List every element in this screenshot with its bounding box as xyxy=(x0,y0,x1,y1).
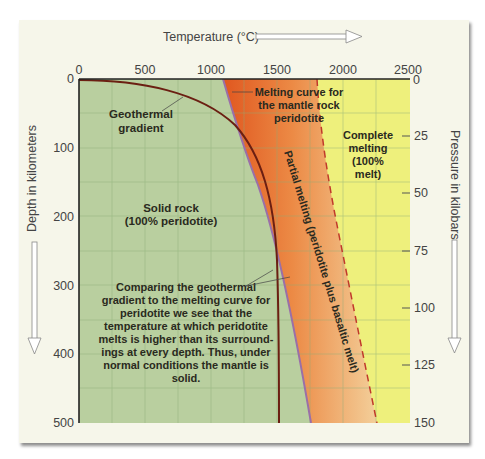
svg-text:150: 150 xyxy=(414,416,435,430)
svg-text:300: 300 xyxy=(53,279,74,293)
svg-text:Complete: Complete xyxy=(343,129,393,141)
svg-text:peridotite: peridotite xyxy=(274,112,324,124)
svg-text:500: 500 xyxy=(135,63,156,77)
svg-text:peridotite we see that the: peridotite we see that the xyxy=(120,307,252,319)
svg-text:the mantle rock: the mantle rock xyxy=(258,99,340,111)
svg-text:normal conditions the mantle i: normal conditions the mantle is xyxy=(103,359,269,371)
svg-text:75: 75 xyxy=(414,244,428,258)
svg-text:1000: 1000 xyxy=(197,63,225,77)
svg-text:1500: 1500 xyxy=(263,63,291,77)
svg-text:400: 400 xyxy=(53,347,74,361)
svg-text:(100% peridotite): (100% peridotite) xyxy=(125,215,218,227)
svg-text:2000: 2000 xyxy=(329,63,357,77)
right-arrow-icon xyxy=(256,30,362,43)
svg-text:Comparing the geothermal: Comparing the geothermal xyxy=(116,281,256,293)
svg-text:melt): melt) xyxy=(355,168,382,180)
svg-text:0: 0 xyxy=(67,72,74,86)
svg-text:ings at every depth. Thus, und: ings at every depth. Thus, under xyxy=(101,346,271,358)
phase-diagram: Temperature (°C) 0 500 1000 1500 2000 25… xyxy=(0,0,485,459)
svg-text:temperature at which peridotit: temperature at which peridotite xyxy=(104,320,268,332)
x-ticks: 0 500 1000 1500 2000 2500 xyxy=(76,63,422,77)
svg-text:gradient: gradient xyxy=(118,122,164,134)
svg-text:25: 25 xyxy=(414,129,428,143)
right-axis-title: Pressure in kilobars xyxy=(448,130,462,240)
svg-text:125: 125 xyxy=(414,358,435,372)
svg-text:0: 0 xyxy=(76,63,83,77)
svg-text:gradient to the melting curve: gradient to the melting curve for xyxy=(102,294,271,306)
depth-ticks: 0 100 200 300 400 500 xyxy=(53,72,74,430)
svg-text:(100%: (100% xyxy=(352,155,384,167)
svg-text:solid.: solid. xyxy=(172,372,201,384)
down-arrow-icon-right xyxy=(448,240,461,353)
svg-text:0: 0 xyxy=(413,73,420,87)
left-axis-title: Depth in kilometers xyxy=(25,125,39,232)
svg-text:melting: melting xyxy=(348,142,387,154)
svg-text:200: 200 xyxy=(53,210,74,224)
svg-text:500: 500 xyxy=(53,416,74,430)
svg-text:50: 50 xyxy=(414,186,428,200)
svg-text:melts is higher than its surro: melts is higher than its surround- xyxy=(99,333,274,345)
svg-text:100: 100 xyxy=(414,301,435,315)
down-arrow-icon-left xyxy=(28,242,41,354)
x-axis-title: Temperature (°C) xyxy=(163,30,259,44)
svg-text:Solid rock: Solid rock xyxy=(143,202,199,214)
svg-text:100: 100 xyxy=(53,141,74,155)
svg-text:Melting curve for: Melting curve for xyxy=(255,86,344,98)
